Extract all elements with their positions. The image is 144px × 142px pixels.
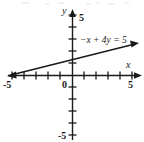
equation-annotation-label: −x + 4y = 5 — [80, 35, 127, 45]
y-axis-arrowhead — [69, 9, 76, 17]
line-right-arrowhead — [130, 41, 139, 48]
x-axis-name-label: x — [125, 59, 131, 70]
y-axis-min-tick-label: -5 — [58, 130, 66, 141]
x-axis-arrowhead — [134, 72, 142, 79]
y-axis-max-tick-label: 5 — [79, 12, 84, 23]
cropped-text-artifact — [22, 2, 129, 5]
origin-label: 0 — [62, 79, 67, 90]
x-axis-min-tick-label: -5 — [3, 79, 11, 90]
x-axis-max-tick-label: 5 — [128, 79, 133, 90]
x-axis — [8, 72, 142, 80]
line-graph-plot: x y 5 -5 -5 5 0 −x + 4y = 5 — [0, 0, 144, 142]
coordinate-plane-figure: x y 5 -5 -5 5 0 −x + 4y = 5 — [0, 0, 144, 142]
y-axis — [69, 9, 77, 140]
y-axis-name-label: y — [61, 5, 67, 16]
